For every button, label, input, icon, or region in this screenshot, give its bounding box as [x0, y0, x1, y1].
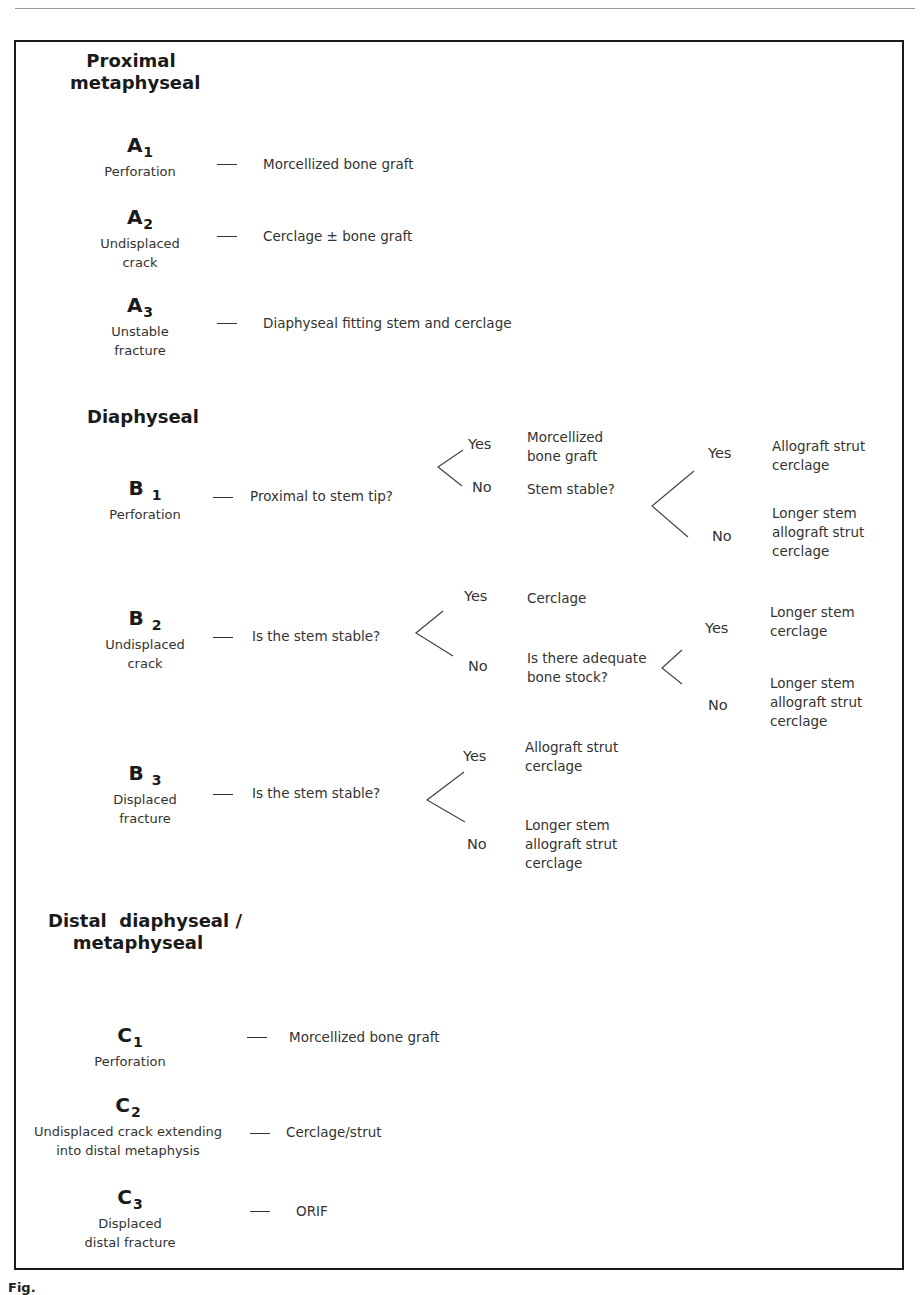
class-description: Perforation	[90, 162, 190, 181]
class-c1: C1 Perforation	[75, 1025, 185, 1071]
question-b1: Proximal to stem tip?	[250, 487, 393, 506]
section-heading-diaphyseal: Diaphyseal	[87, 406, 199, 428]
treatment-c2: Cerclage/strut	[286, 1123, 382, 1142]
outcome-b1-yes: Morcellized bone graft	[527, 428, 603, 466]
answer-no: No	[467, 836, 487, 852]
outcome-b1-no-no: Longer stem allograft strut cerclage	[772, 504, 864, 561]
answer-no: No	[472, 479, 492, 495]
class-code: C1	[75, 1025, 185, 1052]
section-heading-distal: Distal diaphyseal / metaphyseal	[48, 910, 228, 954]
outcome-b3-yes: Allograft strut cerclage	[525, 738, 618, 776]
class-description: Perforation	[95, 505, 195, 524]
class-code: A1	[90, 135, 190, 162]
answer-yes: Yes	[708, 445, 731, 461]
treatment-c1: Morcellized bone graft	[289, 1028, 440, 1047]
outcome-b1-no-yes: Allograft strut cerclage	[772, 437, 865, 475]
answer-yes: Yes	[464, 588, 487, 604]
answer-no: No	[712, 528, 732, 544]
class-code: B 3	[95, 763, 195, 790]
answer-yes: Yes	[463, 748, 486, 764]
outcome-b2-yes: Cerclage	[527, 589, 586, 608]
class-c2: C2 Undisplaced crack extending into dist…	[18, 1095, 238, 1160]
outcome-b3-no: Longer stem allograft strut cerclage	[525, 816, 617, 873]
class-b1: B 1 Perforation	[95, 478, 195, 524]
connector-dash	[247, 1037, 267, 1038]
class-a1: A1 Perforation	[90, 135, 190, 181]
connector-dash	[213, 794, 233, 795]
treatment-a3: Diaphyseal fitting stem and cerclage	[263, 314, 512, 333]
treatment-a1: Morcellized bone graft	[263, 155, 414, 174]
class-code: A2	[90, 207, 190, 234]
class-description: Unstable fracture	[90, 322, 190, 360]
question-b1-stem-stable: Stem stable?	[527, 480, 615, 499]
answer-yes: Yes	[468, 436, 491, 452]
question-b2-bone-stock: Is there adequate bone stock?	[527, 649, 646, 687]
answer-yes: Yes	[705, 620, 728, 636]
heading-line: metaphyseal	[70, 72, 192, 94]
class-code: A3	[90, 295, 190, 322]
connector-dash	[213, 637, 233, 638]
class-b3: B 3 Displaced fracture	[95, 763, 195, 828]
connector-dash	[217, 236, 237, 237]
question-b2: Is the stem stable?	[252, 627, 380, 646]
class-code: B 1	[95, 478, 195, 505]
section-heading-proximal: Proximal metaphyseal	[70, 50, 192, 94]
class-description: Displaced distal fracture	[75, 1214, 185, 1252]
class-description: Undisplaced crack	[95, 635, 195, 673]
answer-no: No	[708, 697, 728, 713]
class-c3: C3 Displaced distal fracture	[75, 1187, 185, 1252]
figure-caption: Fig.	[8, 1280, 36, 1295]
question-b3: Is the stem stable?	[252, 784, 380, 803]
answer-no: No	[468, 658, 488, 674]
outcome-b2-no-no: Longer stem allograft strut cerclage	[770, 674, 862, 731]
class-a2: A2 Undisplaced crack	[90, 207, 190, 272]
outcome-b2-no-yes: Longer stem cerclage	[770, 603, 855, 641]
connector-dash	[213, 497, 233, 498]
class-code: B 2	[95, 608, 195, 635]
class-description: Displaced fracture	[95, 790, 195, 828]
treatment-a2: Cerclage ± bone graft	[263, 227, 412, 246]
heading-line: Proximal	[70, 50, 192, 72]
connector-dash	[217, 323, 237, 324]
class-description: Undisplaced crack	[90, 234, 190, 272]
connector-dash	[250, 1211, 270, 1212]
connector-dash	[250, 1133, 270, 1134]
class-description: Perforation	[75, 1052, 185, 1071]
connector-dash	[217, 164, 237, 165]
class-b2: B 2 Undisplaced crack	[95, 608, 195, 673]
class-code: C2	[18, 1095, 238, 1122]
treatment-c3: ORIF	[296, 1202, 328, 1221]
class-a3: A3 Unstable fracture	[90, 295, 190, 360]
class-description: Undisplaced crack extending into distal …	[18, 1122, 238, 1160]
class-code: C3	[75, 1187, 185, 1214]
